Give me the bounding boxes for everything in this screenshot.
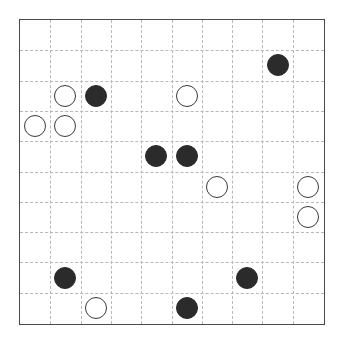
board-cell[interactable] [141, 202, 171, 232]
board-cell[interactable] [81, 232, 111, 262]
board-cell[interactable] [232, 293, 262, 323]
board-cell[interactable] [202, 81, 232, 111]
board-cell[interactable] [232, 172, 262, 202]
board-cell[interactable] [202, 111, 232, 141]
board-cell[interactable] [172, 81, 202, 111]
board-cell[interactable] [81, 20, 111, 50]
board-cell[interactable] [141, 293, 171, 323]
board-cell[interactable] [262, 50, 292, 80]
board-cell[interactable] [232, 81, 262, 111]
board-cell[interactable] [262, 20, 292, 50]
board-cell[interactable] [81, 262, 111, 292]
board-cell[interactable] [232, 20, 262, 50]
board-cell[interactable] [20, 20, 50, 50]
board-cell[interactable] [81, 50, 111, 80]
board-cell[interactable] [172, 232, 202, 262]
board-cell[interactable] [202, 20, 232, 50]
board-cell[interactable] [202, 202, 232, 232]
board-cell[interactable] [293, 81, 323, 111]
board-cell[interactable] [141, 172, 171, 202]
board-cell[interactable] [141, 232, 171, 262]
board-cell[interactable] [81, 111, 111, 141]
board-cell[interactable] [111, 111, 141, 141]
board-cell[interactable] [293, 172, 323, 202]
board-cell[interactable] [172, 262, 202, 292]
board-cell[interactable] [262, 262, 292, 292]
board-cell[interactable] [20, 81, 50, 111]
board-cell[interactable] [50, 141, 80, 171]
board-cell[interactable] [50, 111, 80, 141]
board-cell[interactable] [172, 172, 202, 202]
board-cell[interactable] [141, 20, 171, 50]
board-cell[interactable] [293, 50, 323, 80]
board-cell[interactable] [81, 81, 111, 111]
board-cell[interactable] [202, 50, 232, 80]
board-cell[interactable] [50, 202, 80, 232]
board-cell[interactable] [172, 50, 202, 80]
board-cell[interactable] [20, 172, 50, 202]
board-cell[interactable] [232, 262, 262, 292]
board-cell[interactable] [293, 293, 323, 323]
board-cell[interactable] [20, 293, 50, 323]
board-cell[interactable] [50, 81, 80, 111]
board-cell[interactable] [293, 20, 323, 50]
board-cell[interactable] [262, 141, 292, 171]
board-cell[interactable] [111, 81, 141, 111]
board-cell[interactable] [293, 262, 323, 292]
board-cell[interactable] [111, 262, 141, 292]
board-cell[interactable] [262, 293, 292, 323]
board-cell[interactable] [172, 141, 202, 171]
board-cell[interactable] [202, 141, 232, 171]
board-cell[interactable] [141, 50, 171, 80]
board-cell[interactable] [293, 232, 323, 262]
board-cell[interactable] [232, 141, 262, 171]
board-cell[interactable] [111, 20, 141, 50]
board-cell[interactable] [293, 141, 323, 171]
board-cell[interactable] [172, 20, 202, 50]
board-cell[interactable] [232, 232, 262, 262]
board-cell[interactable] [141, 81, 171, 111]
board-cell[interactable] [262, 202, 292, 232]
board-cell[interactable] [20, 111, 50, 141]
board-cell[interactable] [20, 141, 50, 171]
board-cell[interactable] [141, 262, 171, 292]
board-cell[interactable] [172, 202, 202, 232]
board-cell[interactable] [50, 50, 80, 80]
board-cell[interactable] [111, 293, 141, 323]
board-cell[interactable] [262, 232, 292, 262]
board-cell[interactable] [262, 111, 292, 141]
board-cell[interactable] [293, 111, 323, 141]
board-cell[interactable] [232, 50, 262, 80]
board-cell[interactable] [202, 262, 232, 292]
board-cell[interactable] [293, 202, 323, 232]
board-cell[interactable] [50, 232, 80, 262]
board-cell[interactable] [202, 232, 232, 262]
board-cell[interactable] [81, 172, 111, 202]
board-cell[interactable] [111, 172, 141, 202]
board-cell[interactable] [50, 262, 80, 292]
board-cell[interactable] [50, 293, 80, 323]
board-cell[interactable] [232, 202, 262, 232]
board-cell[interactable] [111, 141, 141, 171]
board-cell[interactable] [172, 293, 202, 323]
board-cell[interactable] [81, 141, 111, 171]
board-cell[interactable] [262, 81, 292, 111]
board-cell[interactable] [81, 202, 111, 232]
board-cell[interactable] [111, 202, 141, 232]
board-cell[interactable] [202, 172, 232, 202]
board-cell[interactable] [232, 111, 262, 141]
board-cell[interactable] [20, 50, 50, 80]
board-cell[interactable] [141, 111, 171, 141]
board-cell[interactable] [111, 232, 141, 262]
board-cell[interactable] [202, 293, 232, 323]
board-cell[interactable] [20, 202, 50, 232]
board-cell[interactable] [141, 141, 171, 171]
board-cell[interactable] [172, 111, 202, 141]
board-cell[interactable] [111, 50, 141, 80]
board-cell[interactable] [81, 293, 111, 323]
board-cell[interactable] [20, 262, 50, 292]
board-cell[interactable] [50, 20, 80, 50]
board-cell[interactable] [50, 172, 80, 202]
board-cell[interactable] [20, 232, 50, 262]
board-cell[interactable] [262, 172, 292, 202]
